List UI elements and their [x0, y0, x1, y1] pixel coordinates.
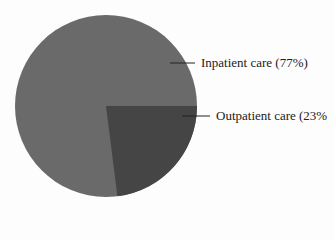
- label-outpatient: Outpatient care (23%: [216, 108, 327, 124]
- label-inpatient: Inpatient care (77%): [201, 55, 308, 71]
- slice-outpatient: [106, 106, 197, 196]
